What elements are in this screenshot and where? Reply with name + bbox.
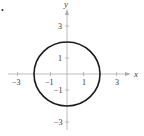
x-axis-label: x xyxy=(133,69,138,79)
y-tick-label: 1 xyxy=(58,54,62,63)
x-tick-label: 3 xyxy=(115,78,119,87)
y-tick-label: 3 xyxy=(58,22,62,31)
x-tick-label: −3 xyxy=(12,78,21,87)
y-tick-label: −3 xyxy=(54,118,63,127)
coordinate-plane: • x y −3 −1 1 3 3 1 −1 −3 xyxy=(0,0,144,136)
x-tick-label: 1 xyxy=(82,78,86,87)
y-axis-arrow-icon xyxy=(65,9,69,15)
y-axis-label: y xyxy=(63,0,68,9)
x-tick-label: −1 xyxy=(45,78,54,87)
problem-bullet: • xyxy=(1,6,4,15)
x-axis-arrow-icon xyxy=(125,72,131,76)
y-tick-label: −1 xyxy=(54,86,63,95)
